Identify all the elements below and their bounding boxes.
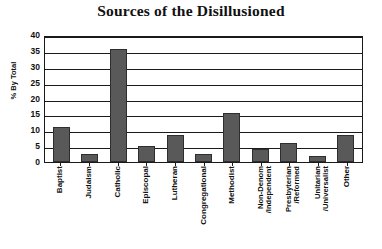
x-tick-label: Lutheran xyxy=(171,166,185,248)
x-axis-tick-labels: BaptistJudaismCatholicEpiscopalLutheranC… xyxy=(44,166,363,248)
bars-container xyxy=(45,37,362,162)
x-tick-label: Presbyterian /Reformed xyxy=(285,166,299,248)
y-axis-tick-labels: 0510152025303540 xyxy=(18,31,40,167)
bar xyxy=(167,135,184,162)
bar xyxy=(252,149,269,162)
bar xyxy=(309,156,326,162)
x-tick-label-text: Unitarian /Universalist xyxy=(314,166,329,248)
x-tick-label-text: Non-Denom /Independent xyxy=(257,166,272,248)
x-tick-label: Catholic xyxy=(114,166,128,248)
y-tick-label: 35 xyxy=(18,47,40,56)
x-tick-label: Other xyxy=(343,166,357,248)
bar xyxy=(280,143,297,162)
bar xyxy=(81,154,98,162)
x-tick-label-text: Episcopal xyxy=(142,166,151,248)
bar xyxy=(195,154,212,162)
x-tick-label-text: Baptist xyxy=(56,166,65,248)
bar xyxy=(138,146,155,162)
x-tick-label-text: Catholic xyxy=(114,166,123,248)
x-tick-label: Congregational xyxy=(200,166,214,248)
plot-area xyxy=(44,36,363,163)
y-tick-label: 40 xyxy=(18,31,40,40)
x-tick-label-text: Methodist xyxy=(228,166,237,248)
x-tick-label: Judaism xyxy=(85,166,99,248)
x-tick-label-text: Other xyxy=(343,166,352,248)
y-axis-title: % By Total xyxy=(9,51,18,111)
bar xyxy=(53,127,70,162)
x-tick-label-text: Presbyterian /Reformed xyxy=(285,166,300,248)
x-tick-label: Methodist xyxy=(228,166,242,248)
x-tick-label-text: Congregational xyxy=(200,166,209,248)
bar-chart-figure: Sources of the Disillusioned % By Total … xyxy=(0,0,382,249)
x-tick-label: Baptist xyxy=(56,166,70,248)
y-tick-label: 20 xyxy=(18,95,40,104)
x-tick-label: Episcopal xyxy=(142,166,156,248)
y-tick-label: 25 xyxy=(18,79,40,88)
y-tick-label: 15 xyxy=(18,110,40,119)
bar xyxy=(110,49,127,162)
x-tick-label-text: Lutheran xyxy=(171,166,180,248)
x-tick-label: Unitarian /Universalist xyxy=(314,166,328,248)
y-tick-label: 0 xyxy=(18,158,40,167)
x-tick-label: Non-Denom /Independent xyxy=(257,166,271,248)
bar xyxy=(223,113,240,162)
x-tick-label-text: Judaism xyxy=(85,166,94,248)
y-tick-label: 10 xyxy=(18,126,40,135)
y-tick-label: 30 xyxy=(18,63,40,72)
bar xyxy=(337,135,354,162)
chart-title: Sources of the Disillusioned xyxy=(0,2,382,20)
y-tick-label: 5 xyxy=(18,142,40,151)
